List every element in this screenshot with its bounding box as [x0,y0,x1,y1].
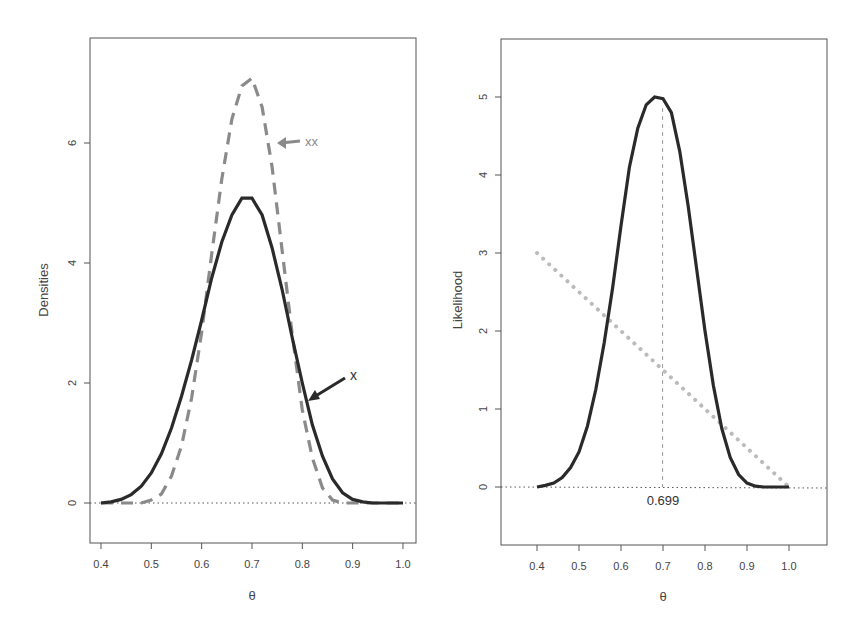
right-likelihood-plot: 012345 0.40.50.60.70.80.91.0 0.699 θ Lik… [450,39,827,604]
right-x-axis: 0.40.50.60.70.80.91.0 [529,545,796,572]
y-tick-label: 0 [66,500,78,506]
mode-value-label: 0.699 [647,493,680,508]
y-tick-label: 1 [477,406,489,412]
y-tick-label: 2 [66,380,78,386]
left-x-label: θ [248,588,255,603]
left-y-label: Densities [36,263,51,317]
arrow-xx-head-icon [277,137,286,149]
x-tick-label: 0.7 [655,560,670,572]
y-tick-label: 4 [477,172,489,178]
left-x-axis: 0.40.50.60.70.80.91.0 [93,543,410,570]
annotation-x: x [350,367,357,383]
arrow-x-icon [314,378,345,397]
x-tick-label: 0.9 [739,560,754,572]
x-tick-label: 0.6 [613,560,628,572]
y-tick-label: 4 [66,260,78,266]
right-y-axis: 012345 [477,94,501,490]
x-tick-label: 0.9 [345,558,360,570]
series-prior-dotted [537,253,789,487]
left-y-axis: 0246 [66,140,90,506]
right-x-label: θ [659,589,666,604]
x-tick-label: 0.4 [529,560,544,572]
right-y-label: Likelihood [450,271,465,330]
chart-canvas: 0246 0.40.50.60.70.80.91.0 xx x θ Densit… [0,0,865,631]
x-tick-label: 1.0 [781,560,796,572]
x-tick-label: 0.5 [144,558,159,570]
left-density-plot: 0246 0.40.50.60.70.80.91.0 xx x θ Densit… [36,38,416,603]
left-plot-frame [90,38,416,543]
y-tick-label: 2 [477,328,489,334]
series-xx-dashed [101,78,403,503]
y-tick-label: 3 [477,250,489,256]
x-tick-label: 0.8 [295,558,310,570]
x-tick-label: 0.5 [571,560,586,572]
annotation-xx: xx [305,134,319,149]
y-tick-label: 0 [477,484,489,490]
series-x-solid [101,198,403,503]
right-plot-frame [501,39,827,545]
x-tick-label: 0.7 [244,558,259,570]
y-tick-label: 6 [66,140,78,146]
x-tick-label: 0.8 [697,560,712,572]
x-tick-label: 1.0 [395,558,410,570]
y-tick-label: 5 [477,94,489,100]
x-tick-label: 0.6 [194,558,209,570]
x-tick-label: 0.4 [93,558,108,570]
